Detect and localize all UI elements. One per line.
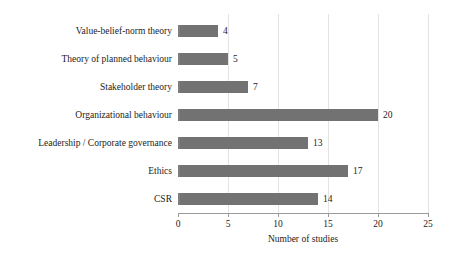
category-label-text: Stakeholder theory xyxy=(100,82,172,92)
category-label-text: Organizational behaviour xyxy=(75,110,172,120)
x-axis-title: Number of studies xyxy=(178,234,428,245)
gridline-25 xyxy=(428,14,429,213)
x-tick-mark-0 xyxy=(178,213,179,217)
x-tick-label-20: 20 xyxy=(366,219,390,230)
category-label-text: Ethics xyxy=(148,166,172,176)
value-label-csr: 14 xyxy=(323,193,333,205)
value-label-stakeholder-theory: 7 xyxy=(253,81,258,93)
bar-leadership-corporate-governance[interactable] xyxy=(178,137,308,149)
bar-theory-of-planned-behaviour[interactable] xyxy=(178,53,228,65)
category-label-csr: CSR xyxy=(0,193,172,205)
x-tick-mark-20 xyxy=(378,213,379,217)
x-tick-label-25: 25 xyxy=(416,219,440,230)
gridline-20 xyxy=(378,14,379,213)
bar-csr[interactable] xyxy=(178,193,318,205)
bar-value-belief-norm-theory[interactable] xyxy=(178,25,218,37)
category-label-ethics: Ethics xyxy=(0,165,172,177)
category-label-text: Leadership / Corporate governance xyxy=(38,138,172,148)
category-label-theory-of-planned-behaviour: Theory of planned behaviour xyxy=(0,53,172,65)
bar-organizational-behaviour[interactable] xyxy=(178,109,378,121)
bar-stakeholder-theory[interactable] xyxy=(178,81,248,93)
x-tick-mark-25 xyxy=(428,213,429,217)
bar-ethics[interactable] xyxy=(178,165,348,177)
category-label-stakeholder-theory: Stakeholder theory xyxy=(0,81,172,93)
category-label-text: Theory of planned behaviour xyxy=(61,54,172,64)
x-tick-label-5: 5 xyxy=(216,219,240,230)
x-tick-mark-5 xyxy=(228,213,229,217)
x-axis-line xyxy=(178,213,429,214)
category-label-leadership-corporate-governance: Leadership / Corporate governance xyxy=(0,137,172,149)
value-label-leadership-corporate-governance: 13 xyxy=(313,137,323,149)
x-tick-label-15: 15 xyxy=(316,219,340,230)
x-tick-mark-10 xyxy=(278,213,279,217)
bar-chart: Value-belief-norm theory Theory of plann… xyxy=(0,0,458,263)
category-label-value-belief-norm-theory: Value-belief-norm theory xyxy=(0,25,172,37)
category-label-text: CSR xyxy=(154,194,172,204)
x-tick-label-10: 10 xyxy=(266,219,290,230)
x-tick-label-0: 0 xyxy=(166,219,190,230)
category-label-organizational-behaviour: Organizational behaviour xyxy=(0,109,172,121)
category-label-text: Value-belief-norm theory xyxy=(76,26,172,36)
value-label-value-belief-norm-theory: 4 xyxy=(223,25,228,37)
x-tick-mark-15 xyxy=(328,213,329,217)
value-label-theory-of-planned-behaviour: 5 xyxy=(233,53,238,65)
value-label-organizational-behaviour: 20 xyxy=(383,109,393,121)
value-label-ethics: 17 xyxy=(353,165,363,177)
